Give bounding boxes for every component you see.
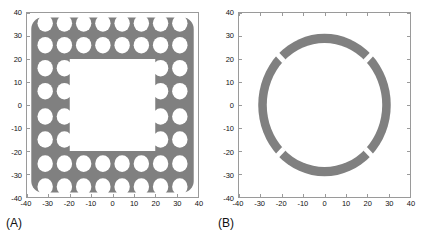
panel-b-xtick-label: 0 [322, 199, 326, 208]
panel-a-ytick-label: 10 [2, 77, 22, 86]
panel-b-xtick-label: -40 [233, 199, 244, 208]
panel-b-ytick-label: 10 [214, 77, 234, 86]
panel-b-ytick-label: -10 [214, 124, 234, 133]
panel-a-ytick-label: -40 [2, 194, 22, 203]
panel-b-xtick-label: 20 [364, 199, 372, 208]
panel-b-plot-area: -40 -30 -20 -10 0 10 20 30 40 40 30 20 1… [238, 12, 411, 198]
panel-a-xtick-label: 20 [152, 199, 160, 208]
panel-a-ytick-label: 20 [2, 54, 22, 63]
panel-b-ytick-label: 40 [214, 8, 234, 17]
panel-b: -40 -30 -20 -10 0 10 20 30 40 40 30 20 1… [212, 0, 424, 233]
panel-a-xtick-label: 0 [110, 199, 114, 208]
panel-b-geometry [239, 13, 410, 197]
figure-container: -40 -30 -20 -10 0 10 20 30 40 40 30 20 1… [0, 0, 424, 233]
panel-a-ytick-label: -20 [2, 147, 22, 156]
panel-a-xtick-label: -10 [85, 199, 96, 208]
panel-a-ytick-label: 0 [2, 101, 22, 110]
panel-a-ytick-label: 40 [2, 8, 22, 17]
panel-b-xtick-label: -30 [254, 199, 265, 208]
panel-b-ytick-label: -40 [214, 194, 234, 203]
panel-b-xtick-label: 10 [342, 199, 350, 208]
panel-b-ytick-label: 30 [214, 31, 234, 40]
panel-b-ytick-label: -20 [214, 147, 234, 156]
panel-a-axes [26, 12, 199, 198]
panel-b-ytick-label: 20 [214, 54, 234, 63]
panel-a-ytick-label: -10 [2, 124, 22, 133]
panel-b-xtick-label: 30 [385, 199, 393, 208]
panel-a-ytick-label: -30 [2, 170, 22, 179]
panel-b-xtick-label: 40 [407, 199, 415, 208]
panel-a-ytick-label: 30 [2, 31, 22, 40]
panel-a-xtick-label: 10 [130, 199, 138, 208]
panel-a-xtick-label: 30 [173, 199, 181, 208]
panel-a-plot-area: -40 -30 -20 -10 0 10 20 30 40 40 30 20 1… [26, 12, 199, 198]
panel-a-xtick-label: 40 [195, 199, 203, 208]
panel-b-xtick-label: -20 [276, 199, 287, 208]
panel-b-xtick-label: -10 [297, 199, 308, 208]
panel-a-label: (A) [6, 216, 22, 230]
panel-a: -40 -30 -20 -10 0 10 20 30 40 40 30 20 1… [0, 0, 212, 233]
panel-a-xtick-label: -20 [64, 199, 75, 208]
panel-b-ytick-label: 0 [214, 101, 234, 110]
panel-a-xtick-label: -30 [42, 199, 53, 208]
panel-b-ytick-label: -30 [214, 170, 234, 179]
panel-a-xtick-label: -40 [21, 199, 32, 208]
panel-a-geometry [27, 13, 198, 197]
panel-b-label: (B) [218, 216, 234, 230]
panel-b-axes [238, 12, 411, 198]
